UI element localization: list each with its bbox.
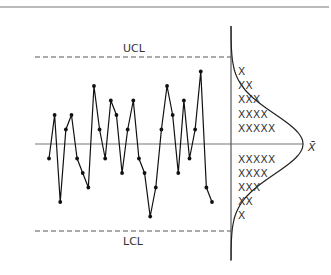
data-point <box>137 157 141 161</box>
data-point <box>193 128 197 132</box>
data-point <box>148 215 152 219</box>
data-point <box>210 200 214 204</box>
data-point <box>103 157 107 161</box>
histogram-row: XXXX <box>238 108 268 120</box>
data-point <box>86 186 90 190</box>
histogram-row: XXXX <box>238 167 268 179</box>
data-point <box>188 157 192 161</box>
data-point <box>75 157 79 161</box>
center-line-label: X̄ <box>307 141 316 154</box>
histogram-row: X <box>238 209 246 221</box>
data-point <box>109 99 113 103</box>
histogram-row: XX <box>238 195 253 207</box>
data-point <box>204 186 208 190</box>
data-point <box>53 113 57 117</box>
ucl-label: UCL <box>123 42 146 55</box>
data-point <box>176 171 180 175</box>
data-point <box>182 99 186 103</box>
data-point <box>171 113 175 117</box>
histogram-row: XXX <box>238 181 260 193</box>
histogram-row: XXXXX <box>238 153 275 165</box>
histogram-row: XXXXX <box>238 122 275 134</box>
histogram-row: XX <box>238 79 253 91</box>
lcl-label: LCL <box>123 235 144 248</box>
data-point <box>92 84 96 88</box>
control-chart: XXXXXXXXXXXXXXXXXXXXXXXXXXXXXX UCL LCL X… <box>0 0 331 275</box>
data-point <box>143 171 147 175</box>
data-point <box>115 113 119 117</box>
data-point <box>64 128 68 132</box>
normal-curve <box>231 26 303 260</box>
histogram-row: XXX <box>238 93 260 105</box>
data-point <box>47 157 51 161</box>
data-point <box>58 200 62 204</box>
data-point <box>126 128 130 132</box>
data-point <box>120 171 124 175</box>
data-point <box>160 128 164 132</box>
data-point <box>165 84 169 88</box>
data-point <box>154 186 158 190</box>
data-point <box>131 99 135 103</box>
data-point <box>199 70 203 74</box>
data-point <box>98 128 102 132</box>
histogram-row: X <box>238 65 246 77</box>
data-point <box>81 171 85 175</box>
data-point <box>70 113 74 117</box>
